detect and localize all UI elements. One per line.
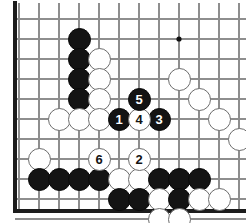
white-stone — [208, 108, 231, 131]
white-stone — [168, 68, 191, 91]
move-stone-6: 6 — [88, 148, 111, 171]
white-stone — [208, 188, 231, 211]
move-number-label: 4 — [129, 109, 150, 130]
move-stone-2: 2 — [128, 148, 151, 171]
go-board-diagram: 123456 — [0, 0, 246, 223]
move-number-label: 2 — [129, 149, 150, 170]
white-stone — [188, 88, 211, 111]
move-stone-4: 4 — [128, 108, 151, 131]
white-stone — [228, 128, 247, 151]
move-number-label: 3 — [149, 109, 170, 130]
move-number-label: 5 — [129, 89, 150, 110]
move-number-label: 6 — [89, 149, 110, 170]
star-point-marker — [176, 36, 181, 41]
move-number-label: 1 — [109, 109, 130, 130]
move-stone-3: 3 — [148, 108, 171, 131]
move-stone-5: 5 — [128, 88, 151, 111]
